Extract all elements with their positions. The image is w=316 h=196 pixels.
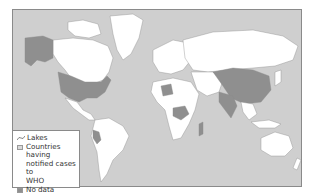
legend-label-notified-line2: notified cases to [17,160,76,177]
legend-item-no-data: No data [17,186,76,195]
map-legend: Lakes Countries having notified cases to… [12,130,80,188]
light-swatch-icon [17,145,23,150]
lakes-icon [17,135,25,141]
legend-label-no-data: No data [26,186,54,195]
legend-label-notified-line1: Countries having [26,143,76,160]
dark-swatch-icon [17,188,23,193]
legend-item-notified: Countries having [17,143,76,160]
